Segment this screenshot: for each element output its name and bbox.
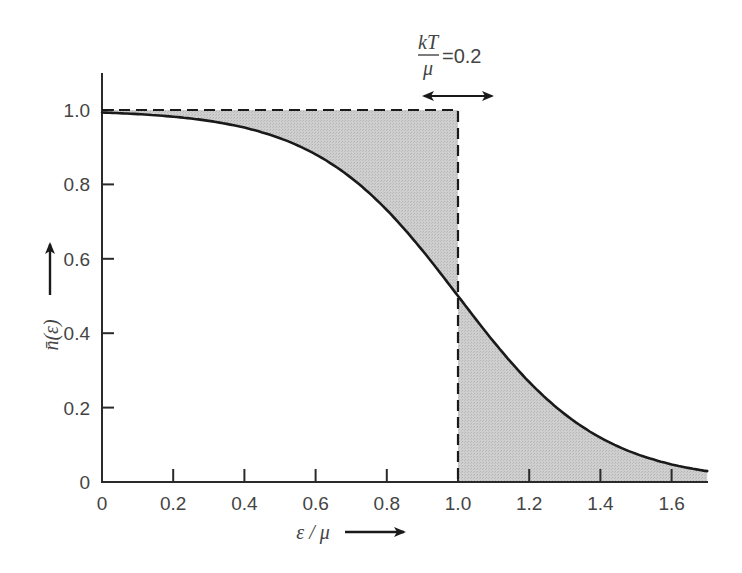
shaded-region-above-fermi [458, 296, 707, 482]
x-tick-label: 1.6 [658, 493, 684, 514]
temperature-annotation: kT μ =0.2 [418, 31, 492, 96]
annotation-numerator: kT [418, 31, 440, 53]
x-axis-label-group: ε / μ [296, 521, 404, 544]
x-tick-label: 0.6 [302, 493, 328, 514]
y-tick-label: 0.2 [64, 398, 90, 419]
y-tick-label: 0.6 [64, 249, 90, 270]
annotation-value: =0.2 [442, 45, 481, 67]
y-tick-label: 0.4 [64, 323, 91, 344]
x-tick-label: 0.8 [374, 493, 400, 514]
annotation-denominator: μ [422, 57, 433, 80]
x-tick-label: 1.2 [516, 493, 542, 514]
y-tick-label: 0.8 [64, 174, 90, 195]
x-tick-label: 0.4 [231, 493, 258, 514]
fermi-dirac-chart: 00.20.40.60.81.01.21.41.6 00.20.40.60.81… [0, 0, 742, 573]
y-axis-ticks: 00.20.40.60.81.0 [64, 100, 114, 493]
x-tick-label: 1.0 [445, 493, 471, 514]
y-tick-label: 0 [79, 472, 90, 493]
x-tick-label: 0.2 [160, 493, 186, 514]
y-axis-label: n̄(ε) [40, 319, 63, 351]
x-tick-label: 0 [97, 493, 108, 514]
y-axis-label-group: n̄(ε) [40, 244, 63, 351]
x-axis-label: ε / μ [296, 521, 329, 544]
y-tick-label: 1.0 [64, 100, 90, 121]
x-tick-label: 1.4 [587, 493, 614, 514]
